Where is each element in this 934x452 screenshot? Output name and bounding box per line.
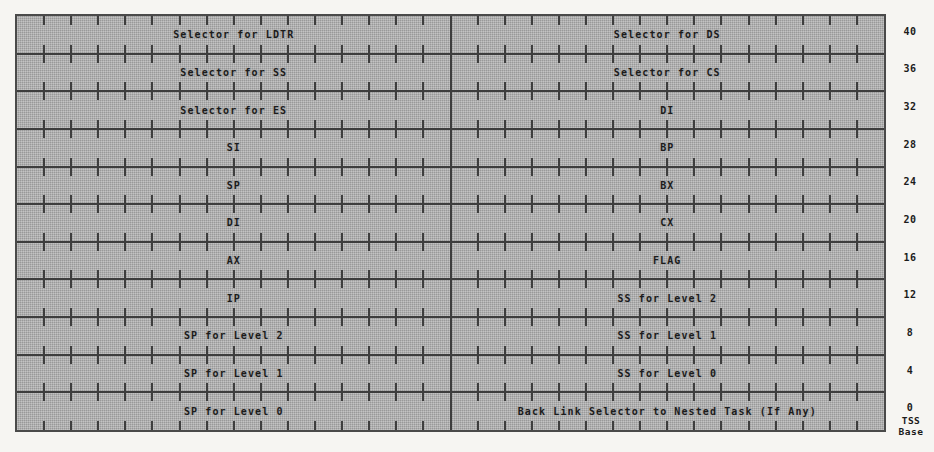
tss-field-label-left: SP for Level 1 <box>17 355 451 393</box>
byte-offset-axis: 4036322824201612840 TSS Base <box>893 14 934 432</box>
tss-field-label-left: Selector for ES <box>17 91 451 129</box>
tss-field-label-right: FLAG <box>451 242 885 280</box>
tss-field-label-right: CX <box>451 204 885 242</box>
tss-field-label-right: SS for Level 1 <box>451 317 885 355</box>
tss-row: Selector for SSSelector for CS <box>17 54 884 92</box>
byte-offset-label: 16 <box>893 252 927 263</box>
byte-offset-label: 32 <box>893 101 927 112</box>
tss-field-label-left: DI <box>17 204 451 242</box>
byte-offset-label: 0 <box>893 402 927 413</box>
byte-offset-label: 20 <box>893 214 927 225</box>
tss-row: SP for Level 1SS for Level 0 <box>17 355 884 393</box>
tss-field-label-left: SP for Level 2 <box>17 317 451 355</box>
tss-row: Selector for ESDI <box>17 91 884 129</box>
tss-field-label-right: DI <box>451 91 885 129</box>
byte-offset-label: 28 <box>893 139 927 150</box>
tss-field-label-right: Selector for DS <box>451 16 885 54</box>
tss-row: Selector for LDTRSelector for DS <box>17 16 884 54</box>
tss-row: SPBX <box>17 167 884 205</box>
tss-base-line2: Base <box>893 426 929 437</box>
tss-field-label-left: SI <box>17 129 451 167</box>
byte-offset-label: 24 <box>893 176 927 187</box>
tss-grid: Selector for LDTRSelector for DSSelector… <box>15 14 886 432</box>
tss-row: SIBP <box>17 129 884 167</box>
tss-base-line1: TSS <box>893 415 929 426</box>
tss-field-label-left: SP <box>17 167 451 205</box>
tss-row: SP for Level 2SS for Level 1 <box>17 317 884 355</box>
tss-field-label-left: IP <box>17 279 451 317</box>
tss-field-label-left: SP for Level 0 <box>17 392 451 430</box>
tss-field-label-right: Selector for CS <box>451 54 885 92</box>
tss-field-label-right: Back Link Selector to Nested Task (If An… <box>451 392 885 430</box>
tss-field-label-left: Selector for LDTR <box>17 16 451 54</box>
tss-row: SP for Level 0Back Link Selector to Nest… <box>17 392 884 430</box>
byte-offset-label: 4 <box>893 365 927 376</box>
tss-field-label-right: BP <box>451 129 885 167</box>
tss-row: IPSS for Level 2 <box>17 279 884 317</box>
byte-offset-label: 8 <box>893 327 927 338</box>
tss-row: AXFLAG <box>17 242 884 280</box>
tss-field-label-right: BX <box>451 167 885 205</box>
byte-offset-label: 40 <box>893 26 927 37</box>
byte-offset-label: 36 <box>893 63 927 74</box>
byte-offset-label: 12 <box>893 289 927 300</box>
tss-field-label-left: Selector for SS <box>17 54 451 92</box>
tss-field-label-left: AX <box>17 242 451 280</box>
tss-base-annotation: TSS Base <box>893 415 929 437</box>
tss-field-label-right: SS for Level 0 <box>451 355 885 393</box>
tss-layout-figure: Selector for LDTRSelector for DSSelector… <box>0 0 934 452</box>
tss-row: DICX <box>17 204 884 242</box>
tss-field-label-right: SS for Level 2 <box>451 279 885 317</box>
